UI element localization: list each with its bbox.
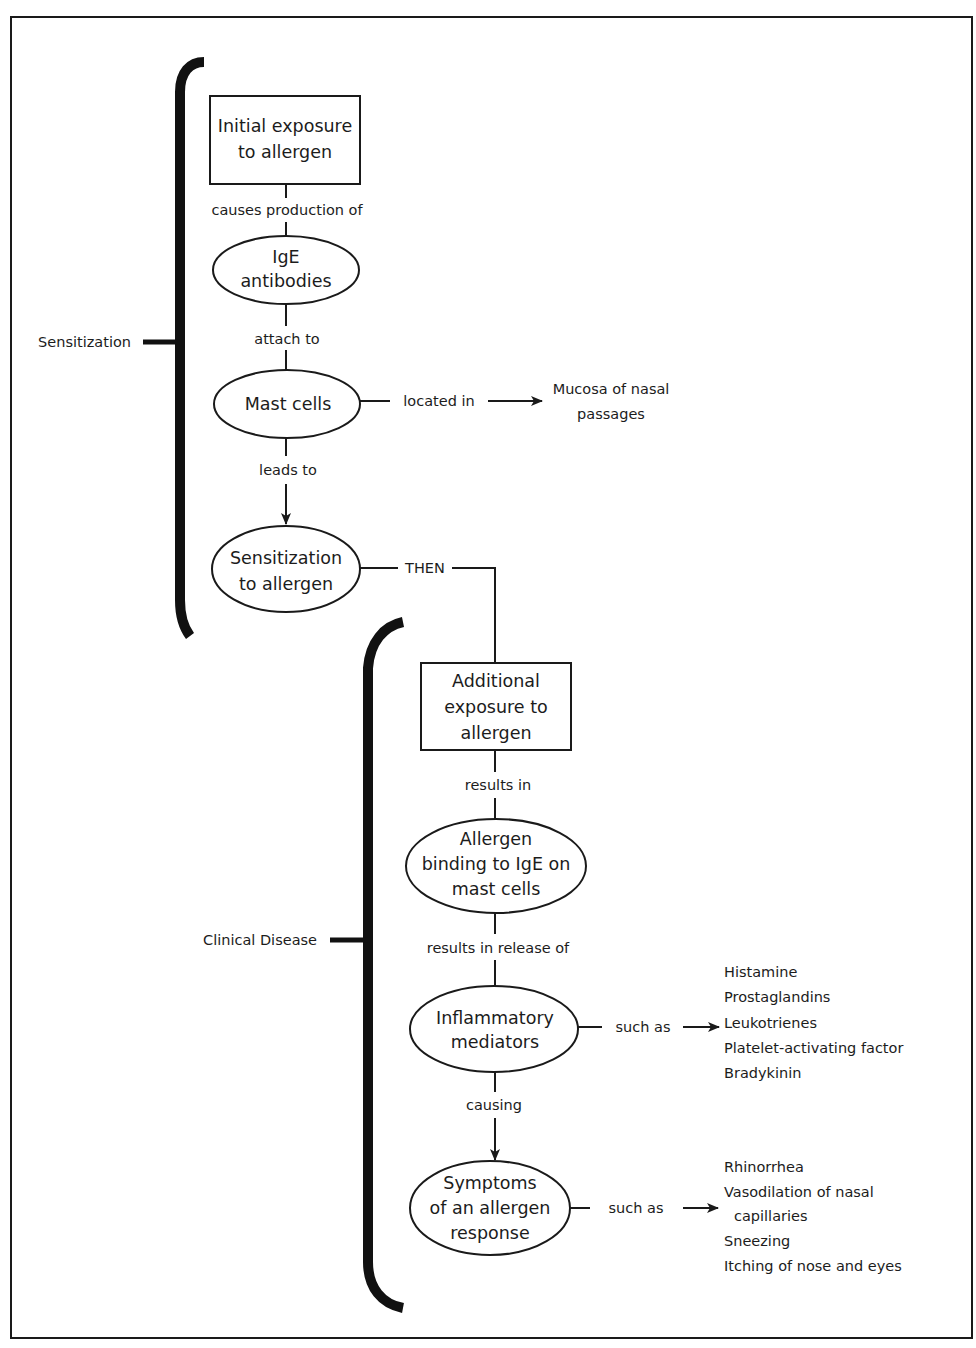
list-item: Rhinorrhea — [724, 1159, 804, 1175]
node-label-line: antibodies — [240, 271, 331, 291]
edge-label-results-in: results in — [465, 777, 531, 793]
node-label-line: exposure to — [444, 697, 548, 717]
list-item: Histamine — [724, 964, 797, 980]
list-item: Bradykinin — [724, 1065, 801, 1081]
node-label-line: Inflammatory — [436, 1008, 554, 1028]
target-mucosa: Mucosa of nasal passages — [553, 381, 670, 422]
list-item: Leukotrienes — [724, 1015, 817, 1031]
node-ellipse — [410, 986, 578, 1072]
edge-label-located-in: located in — [403, 393, 474, 409]
edge-label-results-in-release-of: results in release of — [427, 940, 570, 956]
node-label-line: binding to IgE on — [422, 854, 571, 874]
list-item: Vasodilation of nasal — [724, 1184, 874, 1200]
node-label-line: mast cells — [452, 879, 541, 899]
node-label-line: IgE — [272, 247, 299, 267]
phase-label-sensitization: Sensitization — [38, 334, 131, 350]
node-mast-cells: Mast cells — [214, 370, 360, 438]
edge-label-such-as-symptoms: such as — [609, 1200, 664, 1216]
node-ellipse — [212, 526, 360, 612]
node-label-line: of an allergen — [430, 1198, 551, 1218]
node-label-line: response — [450, 1223, 530, 1243]
edge-label-causing: causing — [466, 1097, 522, 1113]
node-label-line: Allergen — [460, 829, 532, 849]
edge-label-causes-production-of: causes production of — [211, 202, 363, 218]
node-label-line: Additional — [452, 671, 540, 691]
node-label-line: to allergen — [238, 142, 332, 162]
node-label-line: to allergen — [239, 574, 333, 594]
edge-label-attach-to: attach to — [254, 331, 320, 347]
list-item: capillaries — [734, 1208, 808, 1224]
clinical-disease-bracket: Clinical Disease — [203, 622, 403, 1308]
bracket-curve — [368, 622, 403, 1308]
list-item: Itching of nose and eyes — [724, 1258, 902, 1274]
node-label-line: Mast cells — [245, 394, 332, 414]
node-label-line: allergen — [460, 723, 531, 743]
node-symptoms: Symptoms of an allergen response — [410, 1161, 570, 1255]
edge-line — [452, 568, 495, 663]
phase-label-clinical-disease: Clinical Disease — [203, 932, 317, 948]
target-line: Mucosa of nasal — [553, 381, 670, 397]
node-box — [210, 96, 360, 184]
edge-label-leads-to: leads to — [259, 462, 317, 478]
node-additional-exposure: Additional exposure to allergen — [421, 663, 571, 750]
edge-label-such-as-mediators: such as — [616, 1019, 671, 1035]
bracket-curve — [180, 62, 204, 636]
mediator-examples-list: Histamine Prostaglandins Leukotrienes Pl… — [724, 964, 903, 1081]
node-label-line: Symptoms — [443, 1173, 536, 1193]
node-inflammatory-mediators: Inflammatory mediators — [410, 986, 578, 1072]
symptom-examples-list: Rhinorrhea Vasodilation of nasal capilla… — [724, 1159, 902, 1274]
node-label-line: Initial exposure — [218, 116, 352, 136]
node-initial-exposure: Initial exposure to allergen — [210, 96, 360, 184]
edge-label-then: THEN — [404, 560, 445, 576]
diagram-canvas: Sensitization Clinical Disease — [0, 0, 976, 1348]
node-label-line: mediators — [451, 1032, 539, 1052]
node-label-line: Sensitization — [230, 548, 342, 568]
target-line: passages — [577, 406, 645, 422]
list-item: Platelet-activating factor — [724, 1040, 903, 1056]
node-allergen-binding: Allergen binding to IgE on mast cells — [406, 819, 586, 913]
sensitization-bracket: Sensitization — [38, 62, 204, 636]
list-item: Prostaglandins — [724, 989, 830, 1005]
node-sensitization-to-allergen: Sensitization to allergen — [212, 526, 360, 612]
node-ige-antibodies: IgE antibodies — [213, 236, 359, 304]
list-item: Sneezing — [724, 1233, 790, 1249]
